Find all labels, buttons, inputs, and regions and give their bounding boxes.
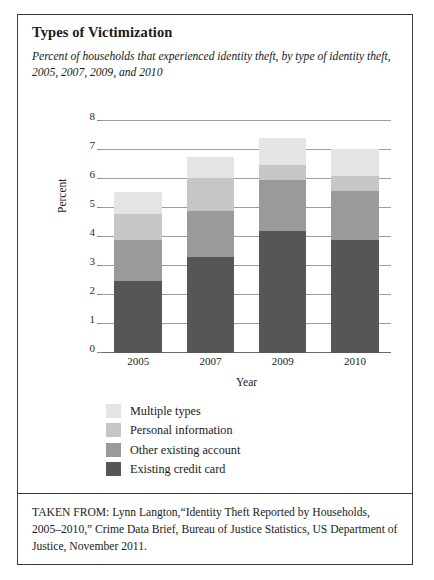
bar-segment-2005-multiple-types[interactable] — [114, 192, 162, 214]
legend-item-label: Existing credit card — [130, 463, 225, 475]
legend-item-other-existing-account[interactable]: Other existing account — [106, 440, 240, 460]
bar-2007[interactable] — [187, 121, 235, 353]
legend-item-label: Personal information — [130, 424, 233, 436]
y-axis-label: Percent — [56, 179, 68, 213]
y-tickmark-2 — [97, 294, 102, 295]
bar-segment-2010-personal-information[interactable] — [331, 176, 379, 191]
y-tick-label-6: 6 — [90, 168, 96, 180]
legend-item-multiple-types[interactable]: Multiple types — [106, 401, 240, 421]
y-tickmark-0 — [97, 352, 102, 353]
legend-swatch-icon — [106, 423, 121, 437]
legend-swatch-icon — [106, 443, 121, 457]
legend-item-label: Other existing account — [130, 444, 240, 456]
y-tickmark-7 — [97, 149, 102, 150]
figure-page: Types of Victimization Percent of househ… — [0, 0, 434, 580]
source-divider — [18, 493, 412, 494]
bar-segment-2009-other-existing-account[interactable] — [259, 180, 307, 231]
legend-item-personal-information[interactable]: Personal information — [106, 421, 240, 441]
bar-2010[interactable] — [331, 121, 379, 353]
x-tick-label-2009: 2009 — [247, 355, 319, 367]
figure-frame: Types of Victimization Percent of househ… — [17, 14, 413, 565]
bar-segment-2010-multiple-types[interactable] — [331, 149, 379, 177]
legend-swatch-icon — [106, 404, 121, 418]
bar-segment-2005-other-existing-account[interactable] — [114, 240, 162, 281]
y-tickmark-8 — [97, 120, 102, 121]
bar-segment-2005-personal-information[interactable] — [114, 214, 162, 240]
source-note: TAKEN FROM: Lynn Langton,“Identity Theft… — [32, 504, 398, 555]
x-tick-label-2005: 2005 — [102, 355, 174, 367]
bar-2005[interactable] — [114, 121, 162, 353]
bar-segment-2007-multiple-types[interactable] — [187, 157, 235, 177]
y-tickmark-6 — [97, 178, 102, 179]
legend-item-label: Multiple types — [130, 405, 201, 417]
bar-segment-2009-existing-credit-card[interactable] — [259, 231, 307, 353]
stacked-bar-chart: Percent 012345678 Year 2005200720092010 — [18, 15, 414, 405]
bar-segment-2010-other-existing-account[interactable] — [331, 191, 379, 240]
y-tick-label-1: 1 — [90, 313, 96, 325]
bar-segment-2005-existing-credit-card[interactable] — [114, 281, 162, 354]
y-tickmark-4 — [97, 236, 102, 237]
y-tick-label-5: 5 — [90, 197, 96, 209]
y-tick-label-8: 8 — [90, 110, 96, 122]
y-tick-label-0: 0 — [90, 342, 96, 354]
y-tick-label-3: 3 — [90, 255, 96, 267]
bar-2009[interactable] — [259, 121, 307, 353]
y-tick-label-2: 2 — [90, 284, 96, 296]
legend-swatch-icon — [106, 462, 121, 476]
y-tickmark-5 — [97, 207, 102, 208]
bar-segment-2007-other-existing-account[interactable] — [187, 211, 235, 257]
x-tick-label-2010: 2010 — [319, 355, 391, 367]
legend-item-existing-credit-card[interactable]: Existing credit card — [106, 460, 240, 480]
bar-segment-2010-existing-credit-card[interactable] — [331, 240, 379, 353]
bar-segment-2007-personal-information[interactable] — [187, 178, 235, 211]
bar-segment-2009-personal-information[interactable] — [259, 165, 307, 181]
bar-segment-2009-multiple-types[interactable] — [259, 138, 307, 164]
y-tickmark-1 — [97, 323, 102, 324]
chart-legend: Multiple typesPersonal informationOther … — [106, 401, 240, 479]
x-tick-label-2007: 2007 — [174, 355, 246, 367]
y-tickmark-3 — [97, 265, 102, 266]
bar-segment-2007-existing-credit-card[interactable] — [187, 257, 235, 353]
x-axis-label: Year — [102, 376, 391, 388]
y-tick-label-7: 7 — [90, 139, 96, 151]
plot-area: 012345678 — [102, 121, 391, 353]
y-tick-label-4: 4 — [90, 226, 96, 238]
